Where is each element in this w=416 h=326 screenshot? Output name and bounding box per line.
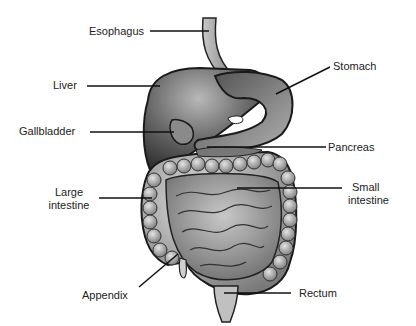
label-large-intestine: Large intestine	[45, 186, 93, 212]
digestive-system-illustration	[0, 0, 416, 326]
label-gallbladder: Gallbladder	[19, 125, 75, 138]
label-large-intestine-line1: Large	[45, 186, 93, 199]
label-esophagus: Esophagus	[89, 25, 144, 38]
label-small-intestine-line2: intestine	[348, 194, 389, 207]
label-rectum: Rectum	[299, 287, 337, 300]
label-small-intestine-line1: Small	[348, 181, 389, 194]
label-pancreas: Pancreas	[328, 141, 374, 154]
appendix-organ	[179, 258, 186, 278]
rectum-organ	[214, 286, 238, 322]
label-appendix: Appendix	[82, 289, 128, 302]
label-large-intestine-line2: intestine	[45, 199, 93, 212]
label-stomach: Stomach	[333, 60, 376, 73]
label-liver: Liver	[53, 79, 77, 92]
label-small-intestine: Small intestine	[348, 181, 389, 207]
